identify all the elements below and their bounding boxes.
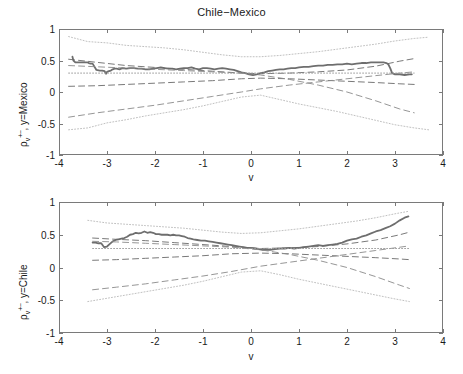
x-tick-mark [251, 151, 252, 155]
y-tick-mark [59, 124, 63, 125]
y-axis-title-bottom: ρv+−, y=Chile [17, 228, 31, 320]
x-tick-mark [251, 329, 252, 333]
series-dotted_lower [69, 95, 429, 130]
y-tick-label: 1 [27, 197, 55, 208]
plot-panel-bottom [59, 202, 443, 333]
x-tick-mark [443, 329, 444, 333]
x-tick-label: 2 [344, 336, 350, 347]
x-axis-title-top: v [59, 172, 443, 183]
x-tick-label: -1 [199, 336, 208, 347]
x-tick-mark-top [299, 29, 300, 33]
y-tick-mark [59, 333, 63, 334]
x-tick-label: 2 [344, 158, 350, 169]
x-tick-mark-top [155, 202, 156, 206]
x-tick-mark-top [107, 202, 108, 206]
plot-panel-top [59, 29, 443, 155]
x-tick-mark-top [443, 29, 444, 33]
y-tick-mark [59, 268, 63, 269]
rho-symbol-bottom: ρ [18, 314, 29, 320]
rho-symbol-top: ρ [18, 141, 29, 147]
y-tick-mark [59, 155, 63, 156]
y-tick-mark-right [439, 333, 443, 334]
x-tick-mark-top [443, 202, 444, 206]
y-tick-mark-right [439, 29, 443, 30]
y-tick-mark-right [439, 268, 443, 269]
series-dashed_upper [93, 232, 410, 248]
rho-superscript-top: +− [17, 131, 24, 138]
y-tick-label: -0.5 [27, 295, 55, 306]
x-tick-mark [347, 329, 348, 333]
figure-title: Chile−Mexico [0, 6, 463, 18]
y-axis-title-top: ρv+−, y=Mexico [17, 51, 31, 147]
x-tick-label: 0 [248, 158, 254, 169]
series-dotted_upper [69, 37, 429, 57]
x-tick-mark-top [107, 29, 108, 33]
x-tick-mark [107, 151, 108, 155]
x-tick-mark-top [395, 202, 396, 206]
y-tick-mark-right [439, 124, 443, 125]
x-tick-mark-top [251, 202, 252, 206]
y-tick-mark [59, 235, 63, 236]
x-tick-label: -1 [199, 158, 208, 169]
y-tick-mark-right [439, 155, 443, 156]
y-tick-mark-right [439, 61, 443, 62]
rho-subscript-bottom: v [24, 311, 31, 315]
x-tick-mark-top [347, 202, 348, 206]
series-dashed_cross_rising [93, 246, 410, 290]
y-tick-label: 0.5 [27, 229, 55, 240]
series-empirical [72, 57, 411, 75]
y-tick-mark-right [439, 92, 443, 93]
x-tick-mark [203, 151, 204, 155]
y-tick-label: -1 [27, 150, 55, 161]
x-tick-label: 3 [392, 158, 398, 169]
x-tick-mark [203, 329, 204, 333]
rho-subscript-top: v [24, 138, 31, 142]
x-tick-mark [395, 151, 396, 155]
x-tick-label: -4 [55, 158, 64, 169]
x-tick-label: 1 [296, 158, 302, 169]
y-tick-mark [59, 202, 63, 203]
figure-canvas: Chile−Mexico -4-3-2-10123410.50-0.5-1 ρv… [0, 0, 463, 374]
y-tick-label: 0.5 [27, 55, 55, 66]
x-tick-label: -2 [151, 158, 160, 169]
x-tick-label: -3 [103, 336, 112, 347]
y-tick-mark [59, 300, 63, 301]
y-axis-title-tail-top: , y=Mexico [18, 83, 29, 131]
x-tick-mark-top [395, 29, 396, 33]
x-tick-mark-top [203, 202, 204, 206]
y-tick-mark-right [439, 202, 443, 203]
x-tick-mark [155, 151, 156, 155]
y-tick-mark-right [439, 235, 443, 236]
series-dashed_lower [69, 78, 415, 86]
x-tick-mark [107, 329, 108, 333]
y-tick-mark [59, 92, 63, 93]
x-tick-label: 4 [440, 336, 446, 347]
x-tick-label: 0 [248, 336, 254, 347]
x-tick-label: -3 [103, 158, 112, 169]
y-tick-label: 0 [27, 262, 55, 273]
x-tick-mark [395, 329, 396, 333]
y-axis-title-tail-bottom: , y=Chile [18, 264, 29, 303]
x-tick-mark [443, 151, 444, 155]
plot-lines-bottom [59, 202, 443, 333]
x-tick-label: 4 [440, 158, 446, 169]
x-tick-mark-top [347, 29, 348, 33]
x-tick-mark [155, 329, 156, 333]
x-tick-label: 1 [296, 336, 302, 347]
x-tick-mark-top [251, 29, 252, 33]
x-tick-mark-top [203, 29, 204, 33]
x-tick-mark-top [299, 202, 300, 206]
y-tick-label: -1 [27, 328, 55, 339]
x-tick-label: -2 [151, 336, 160, 347]
x-tick-mark [299, 329, 300, 333]
x-axis-title-bottom: v [59, 351, 443, 362]
plot-lines-top [59, 29, 443, 155]
series-dashed_upper [69, 59, 415, 74]
series-dotted_lower [88, 271, 410, 302]
x-tick-label: 3 [392, 336, 398, 347]
rho-superscript-bottom: +− [17, 304, 24, 311]
x-tick-mark [347, 151, 348, 155]
x-tick-mark-top [155, 29, 156, 33]
y-tick-label: 1 [27, 24, 55, 35]
x-tick-label: -4 [55, 336, 64, 347]
